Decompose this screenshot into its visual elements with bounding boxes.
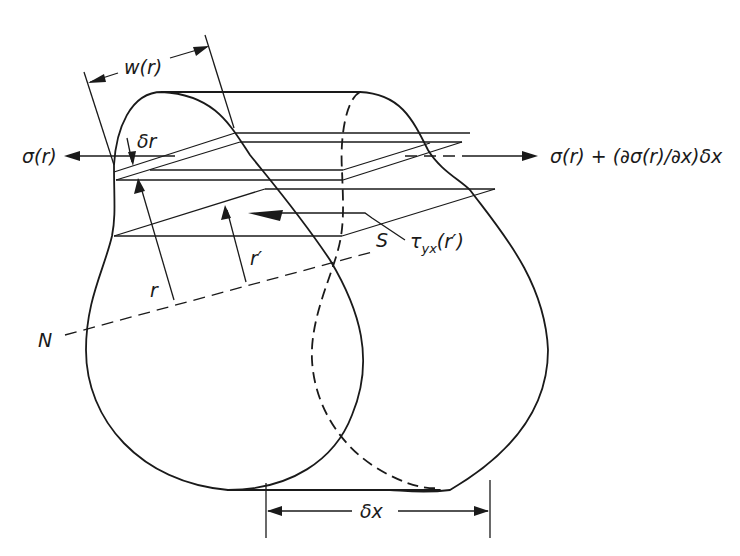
label-r-prime: r′	[250, 247, 263, 269]
strip-back-bottom	[343, 142, 462, 180]
label-N: N	[38, 329, 52, 351]
shear-arrowhead	[248, 210, 283, 221]
dx-arrow-left	[267, 506, 282, 516]
label-tau: τyx(r′)	[410, 230, 464, 256]
label-S: S	[376, 229, 388, 251]
w-arrow-right	[193, 46, 209, 56]
label-sigma-left: σ(r)	[22, 145, 57, 167]
tau-argument: (r′)	[437, 230, 464, 252]
label-sigma-right: σ(r) + (∂σ(r)/∂x)δx	[550, 145, 723, 167]
front-cross-section	[86, 92, 363, 490]
r-prime-arrowhead	[221, 205, 231, 220]
w-arrow-left	[88, 74, 106, 83]
sigma-left-arrowhead	[64, 151, 80, 161]
label-w-r: w(r)	[124, 56, 162, 78]
w-ext-left	[84, 72, 114, 165]
neutral-axis	[65, 252, 372, 335]
label-delta-r: δr	[137, 130, 158, 152]
tau-subscript: yx	[420, 241, 437, 256]
sigma-right-arrowhead	[522, 151, 538, 161]
delta-r-arrowhead	[128, 151, 136, 166]
label-r: r	[150, 279, 159, 301]
plane-front-slant	[114, 189, 265, 236]
back-cross-section-hidden	[312, 92, 440, 488]
r-prime-line	[227, 210, 246, 282]
back-cross-section-visible	[360, 92, 548, 492]
tau-symbol: τ	[410, 230, 422, 252]
strip-front-bottom	[116, 142, 240, 180]
beam-element-diagram: w(r) δr σ(r) σ(r) + (∂σ(r)/∂x)δx r r′ S …	[0, 0, 740, 556]
label-delta-x: δx	[360, 500, 384, 522]
dx-arrow-right	[474, 506, 489, 516]
